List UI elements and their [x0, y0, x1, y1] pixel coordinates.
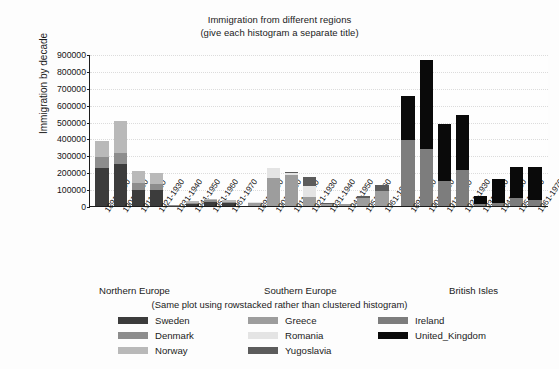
legend-item-norway[interactable]: Norway — [118, 343, 194, 358]
stacked-bar[interactable] — [438, 124, 451, 206]
legend-item-united-kingdom[interactable]: United_Kingdom — [378, 328, 486, 343]
legend-swatch — [118, 347, 148, 354]
legend-column: SwedenDenmarkNorway — [118, 313, 194, 358]
y-axis-tick-label: 900000 — [57, 50, 86, 60]
legend-swatch — [118, 317, 148, 324]
stacked-bar[interactable] — [528, 167, 541, 206]
bar-segment-united_kingdom — [528, 167, 541, 201]
bar-segment-norway — [114, 121, 127, 153]
bar-group-northern-europe: 1891-19001901-19101911-19201921-19301931… — [90, 55, 243, 206]
bar-segment-united_kingdom — [438, 124, 451, 182]
bar-segment-united_kingdom — [456, 115, 469, 171]
y-axis-tick-label: 400000 — [57, 134, 86, 144]
bar-segment-ireland — [420, 149, 433, 206]
stacked-bar[interactable] — [420, 60, 433, 206]
stacked-bar[interactable] — [510, 167, 523, 206]
legend-column: IrelandUnited_Kingdom — [378, 313, 486, 343]
legend-swatch — [248, 332, 278, 339]
stacked-bar[interactable] — [267, 168, 280, 206]
y-axis-tick-label: 300000 — [57, 151, 86, 161]
legend-item-ireland[interactable]: Ireland — [378, 313, 486, 328]
legend-item-romania[interactable]: Romania — [248, 328, 331, 343]
bar-segment-norway — [132, 171, 145, 183]
bar-segment-united_kingdom — [492, 179, 505, 203]
bar-segment-sweden — [95, 168, 108, 206]
legend-headers: Northern EuropeSouthern EuropeBritish Is… — [89, 285, 548, 299]
legend-label: Greece — [285, 315, 316, 326]
bar-segment-ireland — [401, 140, 414, 206]
legend-label: Romania — [285, 330, 323, 341]
bar-group-southern-europe: 1891-19001901-19101911-19201921-19301931… — [243, 55, 396, 206]
chart-title: Immigration from different regions — [0, 14, 559, 27]
bar-segment-sweden — [114, 164, 127, 206]
y-axis-tick-mark — [87, 207, 90, 208]
bar-segment-denmark — [114, 153, 127, 164]
y-axis-tick-label: 600000 — [57, 101, 86, 111]
legend-swatch — [378, 317, 408, 324]
legend-label: Denmark — [155, 330, 194, 341]
legend-label: United_Kingdom — [415, 330, 486, 341]
legend-header-northern-europe: Northern Europe — [99, 285, 170, 296]
bar-segment-denmark — [95, 157, 108, 168]
legend-note: (Same plot using rowstacked rather than … — [0, 299, 559, 310]
y-axis-tick-label: 200000 — [57, 168, 86, 178]
plot-area: 0100000200000300000400000500000600000700… — [89, 55, 548, 207]
bar-segment-romania — [267, 168, 280, 178]
legend-swatch — [248, 347, 278, 354]
legend-swatch — [248, 317, 278, 324]
bar-segment-yugoslavia — [303, 177, 316, 185]
legend-item-greece[interactable]: Greece — [248, 313, 331, 328]
bar-segment-united_kingdom — [401, 96, 414, 141]
legend-label: Norway — [155, 345, 188, 356]
legend-swatch — [118, 332, 148, 339]
stacked-bar[interactable] — [132, 171, 145, 206]
legend-label: Ireland — [415, 315, 444, 326]
y-axis-tick-label: 0 — [81, 202, 86, 212]
chart-title-block: Immigration from different regions (give… — [0, 14, 559, 39]
stacked-bar[interactable] — [456, 115, 469, 206]
legend-swatch — [378, 332, 408, 339]
y-axis-label: Immigration by decade — [38, 0, 49, 169]
y-axis-tick-label: 500000 — [57, 118, 86, 128]
y-axis-tick-label: 800000 — [57, 67, 86, 77]
y-axis-tick-label: 100000 — [57, 185, 86, 195]
bar-group-british-isles: 1891-19001901-19101911-19201921-19301931… — [396, 55, 549, 206]
legend-label: Sweden — [155, 315, 190, 326]
y-axis-tick-label: 700000 — [57, 84, 86, 94]
bar-segment-norway — [95, 141, 108, 157]
bar-segment-united_kingdom — [420, 60, 433, 149]
stacked-bar[interactable] — [114, 121, 127, 206]
stacked-bar[interactable] — [95, 141, 108, 206]
legend-item-yugoslavia[interactable]: Yugoslavia — [248, 343, 331, 358]
chart-canvas: Immigration from different regions (give… — [0, 0, 559, 369]
legend-header-southern-europe: Southern Europe — [264, 285, 337, 296]
legend-label: Yugoslavia — [285, 345, 331, 356]
legend-column: GreeceRomaniaYugoslavia — [248, 313, 331, 358]
chart-subtitle: (give each histogram a separate title) — [0, 27, 559, 40]
legend-item-sweden[interactable]: Sweden — [118, 313, 194, 328]
bar-segment-ireland — [456, 170, 469, 206]
legend-header-british-isles: British Isles — [449, 285, 498, 296]
legend-item-denmark[interactable]: Denmark — [118, 328, 194, 343]
bar-segment-norway — [150, 173, 163, 184]
bar-segment-romania — [303, 186, 316, 197]
bar-segment-denmark — [132, 183, 145, 190]
bar-segment-united_kingdom — [510, 167, 523, 198]
stacked-bar[interactable] — [401, 96, 414, 206]
